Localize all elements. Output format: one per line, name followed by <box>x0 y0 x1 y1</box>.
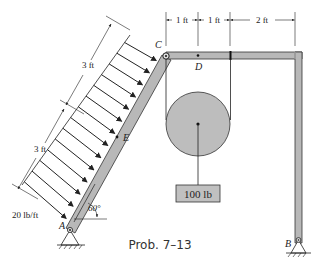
load-arrow <box>32 171 73 206</box>
member-ac <box>66 55 171 233</box>
load-arrow <box>40 160 80 194</box>
label-e: E <box>122 132 129 143</box>
cable-attach-point <box>230 51 232 60</box>
dim-top-1: 1 ft <box>176 15 189 25</box>
dim-left-lower: 3 ft <box>34 144 47 154</box>
member-horizontal <box>166 52 302 59</box>
frame-diagram: 100 lb E C D A 60° B <box>0 0 320 265</box>
load-arrow <box>55 139 94 170</box>
label-a: A <box>58 220 66 231</box>
load-arrow <box>78 107 114 134</box>
weight-label: 100 lb <box>184 188 212 200</box>
label-d: D <box>194 61 203 72</box>
point-e <box>116 136 119 139</box>
figure-caption: Prob. 7–13 <box>0 238 320 252</box>
load-arrow <box>86 96 121 121</box>
load-arrow <box>117 53 149 72</box>
dim-left-upper: 3 ft <box>82 60 95 70</box>
angle-label: 60° <box>88 203 101 213</box>
dim-top-3: 2 ft <box>256 15 269 25</box>
dim-top-2: 1 ft <box>208 15 221 25</box>
load-arrow <box>63 128 101 157</box>
load-label: 20 lb/ft <box>12 210 39 220</box>
load-arrow <box>125 43 157 61</box>
load-arrow <box>47 150 86 182</box>
point-d <box>197 54 200 57</box>
load-arrow <box>71 118 108 146</box>
load-arrow <box>109 64 142 85</box>
member-vertical-b <box>295 52 302 243</box>
label-c: C <box>155 39 162 50</box>
left-dimensions <box>12 16 130 199</box>
